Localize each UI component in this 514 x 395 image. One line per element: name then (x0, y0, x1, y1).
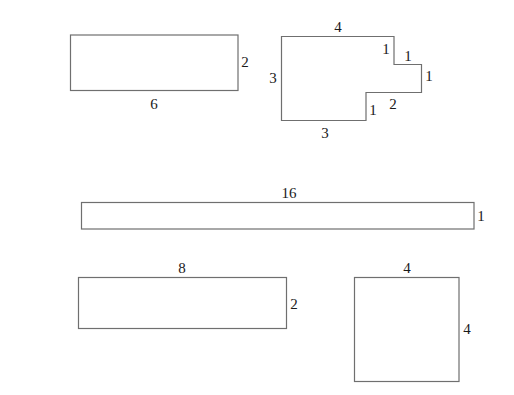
rect-16x1 (82, 203, 475, 230)
rect-6x2-bottom-label: 6 (150, 97, 158, 112)
square-4x4-top-label: 4 (403, 261, 411, 276)
l-shape-bottom-label: 3 (321, 126, 329, 141)
rect-6x2-right-label: 2 (241, 55, 249, 70)
l-shape-right-label: 1 (425, 69, 433, 84)
l-shape-notch-bottom-horizontal-label: 2 (389, 97, 397, 112)
square-4x4-right-label: 4 (463, 322, 471, 337)
rect-8x2-right-label: 2 (290, 297, 298, 312)
l-shape-top-label: 4 (334, 20, 342, 35)
l-shape-notch-top-horizontal-label: 1 (404, 49, 412, 64)
diagram-canvas (0, 0, 514, 395)
square-4x4 (355, 278, 460, 382)
rect-8x2 (79, 278, 287, 329)
rect-8x2-top-label: 8 (178, 261, 186, 276)
composite-l-shape (282, 37, 422, 121)
rect-16x1-right-label: 1 (477, 209, 485, 224)
l-shape-notch-bottom-vertical-label: 1 (369, 103, 377, 118)
l-shape-left-label: 3 (269, 71, 277, 86)
rect-6x2 (71, 35, 239, 91)
rect-16x1-top-label: 16 (282, 186, 297, 201)
l-shape-notch-top-vertical-label: 1 (382, 42, 390, 57)
